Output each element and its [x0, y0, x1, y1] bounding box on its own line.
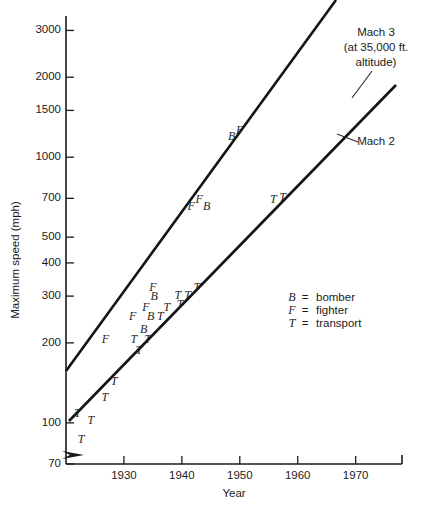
data-point-t: T: [101, 390, 109, 404]
y-axis-title: Maximum speed (mph): [9, 201, 21, 319]
legend-equals-sign: =: [302, 291, 309, 303]
y-tick-label: 70: [48, 457, 61, 469]
legend: B=bomberF=fighterT=transport: [287, 290, 362, 330]
axes-group: [62, 16, 402, 464]
data-point-f: F: [128, 309, 137, 323]
data-point-t: T: [78, 432, 86, 446]
y-tick-label: 1000: [35, 150, 61, 162]
y-tick-label: 400: [42, 256, 61, 268]
legend-symbol-transport: T: [289, 316, 297, 330]
data-point-t: T: [163, 300, 171, 314]
y-tick-label: 200: [42, 336, 61, 348]
data-point-t: T: [88, 413, 96, 427]
y-tick-group: 701002003004005007001000150020003000: [35, 23, 74, 469]
legend-equals-sign: =: [302, 317, 309, 329]
x-axis-title: Year: [222, 487, 245, 499]
data-point-b: B: [147, 309, 155, 323]
legend-label-bomber: bomber: [316, 291, 355, 303]
legend-equals-sign: =: [302, 304, 309, 316]
data-point-b: B: [150, 289, 158, 303]
y-tick-label: 3000: [35, 23, 61, 35]
y-tick-label: 1500: [35, 103, 61, 115]
mach3-annotation-line2: (at 35,000 ft.: [344, 41, 409, 53]
data-point-b: B: [228, 129, 236, 143]
speed-vs-year-chart: 701002003004005007001000150020003000 193…: [0, 0, 424, 511]
data-point-f: F: [186, 199, 195, 213]
mach3-annotation-line1: Mach 3: [357, 26, 395, 38]
legend-symbol-fighter: F: [287, 303, 296, 317]
y-tick-label: 100: [42, 416, 61, 428]
data-point-group: TTTTTFTTBTFFBFBTTTTTTFFBBFTT: [74, 123, 287, 446]
x-tick-label: 1970: [343, 469, 369, 481]
y-tick-label: 300: [42, 289, 61, 301]
mach3-leader-line: [352, 71, 372, 98]
y-tick-label: 700: [42, 191, 61, 203]
legend-label-transport: transport: [316, 317, 362, 329]
data-point-t: T: [270, 192, 278, 206]
data-point-t: T: [144, 332, 152, 346]
data-point-b: B: [203, 199, 211, 213]
mach3-annotation-line3: altitude): [356, 56, 397, 68]
annotations-group: Mach 3 (at 35,000 ft. altitude) Mach 2: [337, 26, 408, 147]
chart-canvas: 701002003004005007001000150020003000 193…: [0, 0, 424, 511]
y-tick-label: 2000: [35, 70, 61, 82]
x-tick-label: 1930: [111, 469, 137, 481]
x-tick-label: 1950: [227, 469, 253, 481]
legend-label-fighter: fighter: [316, 304, 348, 316]
legend-symbol-bomber: B: [288, 290, 296, 304]
y-tick-label: 500: [42, 230, 61, 242]
trend-lines-group: [66, 0, 396, 421]
x-tick-label: 1940: [169, 469, 195, 481]
data-point-f: F: [235, 123, 244, 137]
x-tick-label: 1960: [285, 469, 311, 481]
x-tick-group: 19301940195019601970: [111, 456, 368, 481]
mach2-annotation: Mach 2: [357, 135, 395, 147]
data-point-t: T: [111, 374, 119, 388]
data-point-f: F: [101, 332, 110, 346]
